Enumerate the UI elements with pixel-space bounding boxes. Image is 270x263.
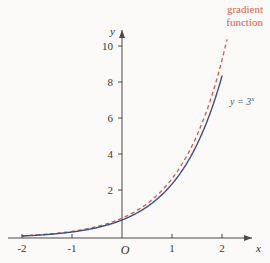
- exponential-curve-label-exponent: x: [250, 95, 255, 103]
- exponential-gradient-figure: -2 -1 O 1 2 2 4 6 8 10 y x gradient func…: [0, 0, 270, 263]
- y-axis-arrow-icon: [119, 30, 125, 38]
- gradient-function-label-line2: function: [226, 16, 263, 28]
- exponential-curve-label-base: y = 3: [229, 96, 251, 107]
- origin-label: O: [121, 243, 130, 257]
- y-tick-label-8: 8: [108, 76, 114, 88]
- chart-canvas: -2 -1 O 1 2 2 4 6 8 10 y x gradient func…: [0, 0, 270, 263]
- x-tick-label-1: 1: [169, 242, 175, 254]
- x-axis-arrow-icon: [244, 235, 252, 241]
- y-tick-label-2: 2: [108, 184, 114, 196]
- gradient-function-label-line1: gradient: [227, 3, 263, 15]
- x-tick-label--2: -2: [17, 242, 26, 254]
- y-tick-label-4: 4: [108, 148, 114, 160]
- exponential-curve-label: y = 3x: [229, 95, 255, 107]
- gradient-function-curve: [22, 39, 227, 235]
- y-axis-label: y: [109, 25, 115, 37]
- x-tick-label-2: 2: [219, 242, 225, 254]
- y-tick-label-10: 10: [102, 40, 114, 52]
- y-tick-label-6: 6: [108, 112, 114, 124]
- x-axis-label: x: [255, 242, 261, 254]
- x-tick-label--1: -1: [67, 242, 76, 254]
